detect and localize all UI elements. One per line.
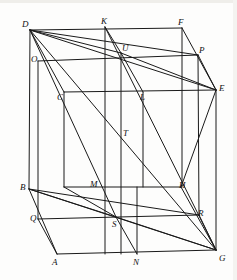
vertex-label-D: D — [22, 20, 29, 29]
wireframe-canvas — [0, 0, 237, 280]
vertex-label-L: L — [140, 93, 145, 102]
vertex-label-F: F — [178, 18, 184, 27]
edge-D-B — [29, 30, 30, 189]
vertex-label-C: C — [57, 93, 63, 102]
diag-B-S — [29, 189, 116, 217]
vertex-label-S: S — [112, 220, 117, 229]
vertex-label-U: U — [122, 44, 129, 53]
vertex-label-B: B — [20, 183, 26, 192]
diag-M-S — [64, 187, 116, 217]
diag-D-S — [30, 30, 116, 217]
vertex-label-M: M — [90, 180, 98, 189]
vertex-label-Q: Q — [30, 214, 37, 223]
edge-group — [29, 27, 216, 254]
vertex-label-R: R — [198, 209, 204, 218]
diag-U-E — [121, 53, 216, 90]
diag-Q-A — [38, 219, 57, 254]
vertex-label-K: K — [101, 17, 107, 26]
vertex-label-H: H — [179, 181, 186, 190]
vertex-label-P: P — [199, 46, 205, 55]
vertex-label-T: T — [123, 129, 128, 138]
vertex-label-N: N — [133, 258, 139, 267]
diag-S-G — [116, 217, 216, 250]
diag-U-L — [121, 53, 143, 92]
vertex-label-G: G — [219, 254, 226, 263]
geometry-diagram: DKFUPOECLTBMHQSRANG — [0, 0, 237, 280]
vertex-label-O: O — [31, 55, 38, 64]
vertex-label-E: E — [219, 84, 225, 93]
edge-P-R — [198, 55, 199, 215]
diag-B-R — [29, 189, 199, 215]
vertex-label-A: A — [52, 258, 58, 267]
